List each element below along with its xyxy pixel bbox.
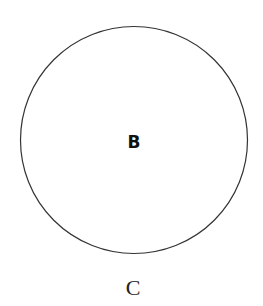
diagram-canvas: B C — [0, 0, 263, 306]
circle-caption-label: C — [126, 275, 141, 300]
circle-inner-label: B — [128, 132, 141, 152]
